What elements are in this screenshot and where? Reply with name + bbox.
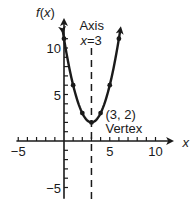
data-point	[107, 83, 112, 88]
y-tick-label: 5	[54, 88, 61, 103]
data-point	[80, 111, 85, 116]
data-point	[62, 36, 67, 41]
y-tick-labels: 105−5	[46, 41, 61, 196]
vertex-label: Vertex	[105, 121, 142, 136]
y-tick-label: 10	[47, 41, 61, 56]
x-tick-label: 10	[148, 144, 162, 159]
data-point	[89, 120, 94, 125]
axis-of-symmetry-equation: x=3	[79, 33, 101, 48]
data-point	[98, 111, 103, 116]
x-tick-labels: −5510	[11, 144, 163, 159]
x-axis-label: x	[182, 135, 190, 150]
y-axis-label: f(x)	[36, 5, 55, 20]
axis-of-symmetry-label: Axis	[79, 18, 104, 33]
data-point	[117, 36, 122, 41]
parabola-chart: f(x) x −5510 105−5 Axis x=3 (3, 2) Verte…	[0, 0, 192, 214]
y-tick-label: −5	[46, 181, 61, 196]
x-tick-label: 5	[106, 144, 113, 159]
x-tick-label: −5	[11, 144, 26, 159]
data-point	[71, 83, 76, 88]
vertex-coordinates-label: (3, 2)	[105, 107, 135, 122]
